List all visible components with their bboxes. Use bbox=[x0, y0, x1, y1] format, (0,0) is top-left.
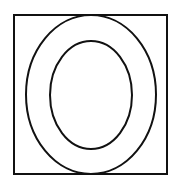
inner-ellipse bbox=[50, 41, 132, 149]
diagram-canvas bbox=[0, 0, 177, 187]
outer-square bbox=[14, 15, 167, 174]
outer-ellipse bbox=[26, 15, 156, 174]
